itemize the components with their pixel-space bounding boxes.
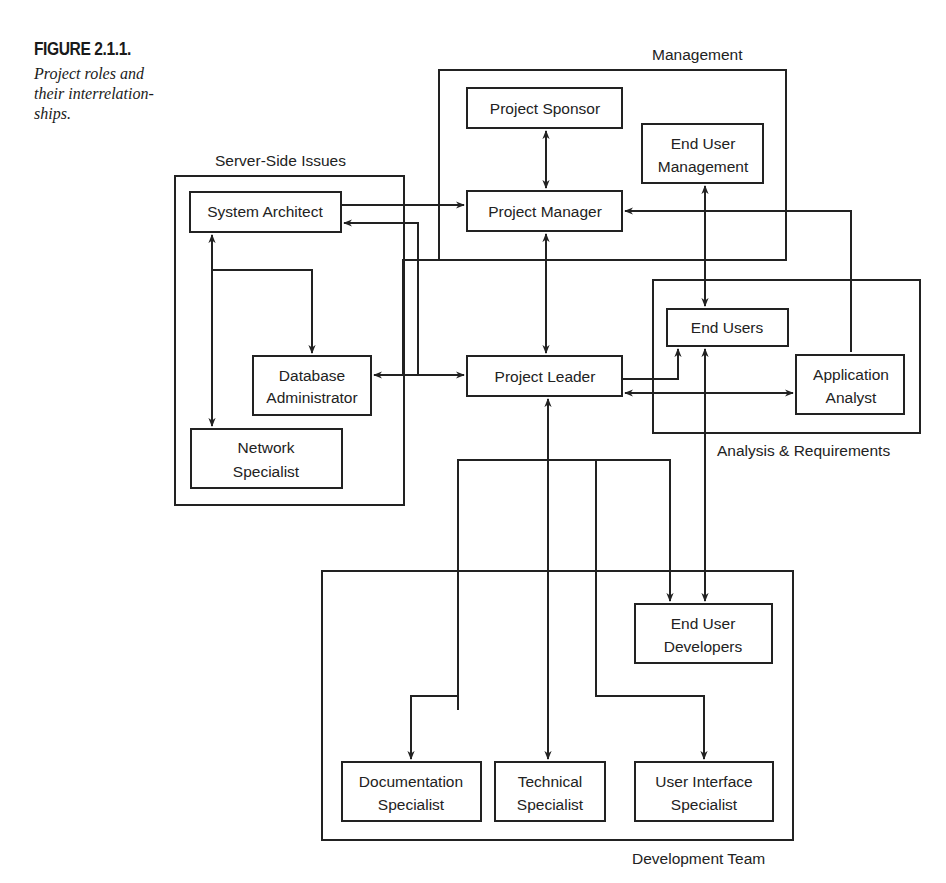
edge-dba-architect-leader — [344, 223, 418, 374]
group-label-management: Management — [652, 46, 743, 63]
edge-bus-ui — [596, 460, 704, 759]
group-label-analysis: Analysis & Requirements — [717, 442, 890, 459]
label-dba-2: Administrator — [266, 389, 357, 406]
label-network-2: Specialist — [233, 463, 300, 480]
label-project-leader: Project Leader — [495, 368, 596, 385]
label-ui-1: User Interface — [655, 773, 752, 790]
edge-leader-endusers — [622, 349, 678, 379]
label-eum-1: End User — [671, 135, 736, 152]
label-dba-1: Database — [279, 367, 345, 384]
edge-architect-dba — [212, 270, 312, 353]
label-doc-2: Specialist — [378, 796, 445, 813]
edge-leader-team-bus — [458, 460, 670, 710]
group-label-development: Development Team — [632, 850, 765, 867]
label-project-sponsor: Project Sponsor — [490, 100, 600, 117]
label-analyst-2: Analyst — [826, 389, 878, 406]
label-tech-1: Technical — [518, 773, 583, 790]
label-ui-2: Specialist — [671, 796, 738, 813]
label-eum-2: Management — [658, 158, 749, 175]
label-project-manager: Project Manager — [488, 203, 602, 220]
node-database-administrator[interactable] — [253, 356, 371, 415]
group-analysis — [653, 280, 920, 433]
label-system-architect: System Architect — [207, 203, 323, 220]
label-eud-2: Developers — [664, 638, 743, 655]
group-label-server-side: Server-Side Issues — [215, 152, 346, 169]
label-network-1: Network — [238, 439, 295, 456]
label-analyst-1: Application — [813, 366, 889, 383]
label-end-users: End Users — [691, 319, 764, 336]
project-roles-diagram: Management Server-Side Issues Analysis &… — [0, 0, 946, 883]
label-eud-1: End User — [671, 615, 736, 632]
label-doc-1: Documentation — [359, 773, 463, 790]
label-tech-2: Specialist — [517, 796, 584, 813]
edge-bus-documentation — [411, 695, 458, 759]
